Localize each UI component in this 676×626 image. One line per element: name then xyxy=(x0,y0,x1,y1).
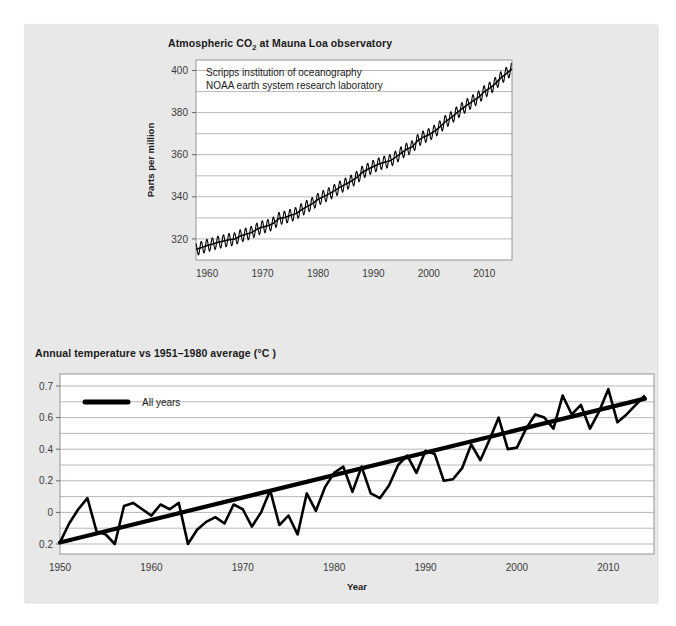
temperature-x-axis-ticks: 1950196019701980199020002010 xyxy=(49,562,620,573)
y-tick-label: 340 xyxy=(171,191,188,202)
y-tick-label: 400 xyxy=(171,65,188,76)
legend-label: All years xyxy=(142,397,180,408)
y-tick-label: 360 xyxy=(171,149,188,160)
co2-y-axis-ticks: 320340360380400 xyxy=(171,65,196,244)
x-tick-label: 1980 xyxy=(307,268,330,279)
y-tick-label: 0.6 xyxy=(39,412,53,423)
temperature-chart: 0.70.60.40.200.2195019601970198019902000… xyxy=(28,366,660,596)
co2-chart: 320340360380400196019701980199020002010P… xyxy=(140,55,520,310)
y-tick-label: 380 xyxy=(171,107,188,118)
co2-annotation-line: Scripps institution of oceanography xyxy=(206,67,362,78)
x-tick-label: 1980 xyxy=(323,562,346,573)
y-tick-label: 0.2 xyxy=(39,539,53,550)
y-tick-label: 0.7 xyxy=(39,381,53,392)
temperature-chart-title: Annual temperature vs 1951–1980 average … xyxy=(35,347,276,359)
co2-title-part2: at Mauna Loa observatory xyxy=(257,37,393,49)
x-tick-label: 1970 xyxy=(232,562,255,573)
x-tick-label: 2010 xyxy=(597,562,620,573)
x-tick-label: 1950 xyxy=(49,562,72,573)
x-tick-label: 2000 xyxy=(418,268,441,279)
x-tick-label: 1960 xyxy=(196,268,219,279)
y-tick-label: 320 xyxy=(171,234,188,245)
co2-y-axis-label: Parts per million xyxy=(145,123,156,198)
co2-annotation-line: NOAA earth system research laboratory xyxy=(206,80,383,91)
y-tick-label: 0.2 xyxy=(39,475,53,486)
figure-root: Atmospheric CO2 at Mauna Loa observatory… xyxy=(0,0,676,626)
temperature-y-axis-ticks: 0.70.60.40.200.2 xyxy=(39,381,60,550)
co2-title-part1: Atmospheric CO xyxy=(168,37,252,49)
y-tick-label: 0 xyxy=(47,507,53,518)
x-tick-label: 1990 xyxy=(362,268,385,279)
x-tick-label: 2010 xyxy=(473,268,496,279)
temperature-x-axis-label: Year xyxy=(347,581,367,592)
x-tick-label: 1990 xyxy=(414,562,437,573)
x-tick-label: 1960 xyxy=(140,562,163,573)
y-tick-label: 0.4 xyxy=(39,444,53,455)
x-tick-label: 1970 xyxy=(251,268,274,279)
co2-chart-title: Atmospheric CO2 at Mauna Loa observatory xyxy=(168,37,392,52)
x-tick-label: 2000 xyxy=(506,562,529,573)
co2-x-axis-ticks: 196019701980199020002010 xyxy=(196,268,496,279)
